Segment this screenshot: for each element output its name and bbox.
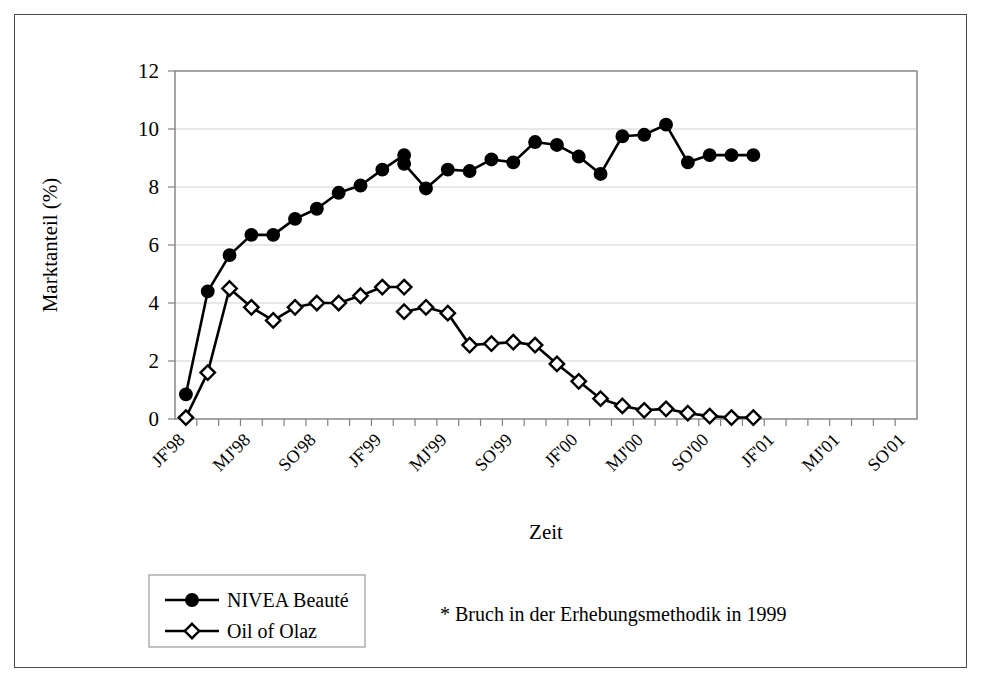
y-tick-label: 4 [149, 291, 160, 315]
y-tick-label: 0 [149, 407, 160, 431]
data-point-marker-circle [551, 139, 563, 151]
data-point-marker-diamond [659, 402, 673, 416]
data-point-marker-circle [747, 149, 759, 161]
data-point-marker-circle [660, 118, 672, 130]
data-point-marker-circle [332, 187, 344, 199]
series-line-segment [186, 155, 404, 394]
data-point-marker-diamond [266, 313, 280, 327]
data-point-marker-diamond [288, 300, 302, 314]
y-axis-tick-labels: 024681012 [138, 59, 160, 431]
data-point-marker-diamond [702, 409, 716, 423]
data-point-marker-diamond [637, 403, 651, 417]
x-tick-label: SO'99 [471, 430, 516, 475]
data-point-marker-diamond [179, 410, 193, 424]
data-point-marker-circle [616, 130, 628, 142]
data-point-marker-circle [267, 229, 279, 241]
x-axis-title: Zeit [529, 520, 563, 544]
data-point-marker-diamond [441, 306, 455, 320]
data-point-marker-circle [245, 229, 257, 241]
data-point-marker-diamond [484, 336, 498, 350]
data-point-marker-circle [573, 150, 585, 162]
x-tick-label: JF'99 [344, 430, 385, 471]
data-point-marker-diamond [397, 305, 411, 319]
data-point-marker-diamond [681, 406, 695, 420]
data-point-marker-circle [594, 168, 606, 180]
data-point-marker-diamond [615, 399, 629, 413]
legend-entry: Oil of Olaz [165, 620, 317, 642]
data-point-marker-circle [420, 182, 432, 194]
x-tick-label: MJ'98 [209, 430, 254, 475]
data-point-marker-diamond [353, 289, 367, 303]
y-tick-label: 10 [138, 117, 159, 141]
data-point-marker-circle [507, 156, 519, 168]
data-point-marker-diamond [462, 338, 476, 352]
data-point-marker-diamond [724, 410, 738, 424]
x-tick-label: MJ'01 [798, 430, 843, 475]
data-point-marker-circle [682, 156, 694, 168]
series-oil-of-olaz [179, 280, 761, 425]
data-point-marker-circle [725, 149, 737, 161]
data-point-marker-circle [180, 388, 192, 400]
data-point-marker-circle [311, 203, 323, 215]
data-point-marker-circle [703, 149, 715, 161]
data-point-marker-diamond [375, 280, 389, 294]
x-axis-tick-labels: JF'98MJ'98SO'98JF'99MJ'99SO'99JF'00MJ'00… [148, 430, 909, 475]
x-tick-label: SO'01 [863, 430, 908, 475]
data-point-marker-circle [638, 129, 650, 141]
y-tick-label: 6 [149, 233, 160, 257]
data-point-marker-circle [289, 213, 301, 225]
data-point-marker-circle [398, 158, 410, 170]
data-point-marker-circle [202, 285, 214, 297]
legend-label: Oil of Olaz [227, 620, 317, 642]
y-axis-ticks [168, 71, 175, 419]
data-point-marker-circle [354, 179, 366, 191]
series-line-segment [404, 307, 753, 417]
x-axis-ticks [197, 419, 895, 426]
data-point-marker-circle [442, 163, 454, 175]
series-nivea-beaut [180, 118, 760, 400]
data-point-marker-diamond [185, 624, 199, 638]
x-tick-label: JF'00 [540, 430, 581, 471]
legend-entries: NIVEA BeautéOil of Olaz [165, 589, 349, 642]
x-tick-label: SO'98 [274, 430, 319, 475]
y-axis-title: Marktanteil (%) [38, 178, 62, 313]
x-tick-label: JF'01 [737, 430, 778, 471]
data-point-marker-diamond [419, 300, 433, 314]
legend-entry: NIVEA Beauté [165, 589, 349, 611]
data-point-marker-circle [376, 163, 388, 175]
chart-legend: NIVEA BeautéOil of Olaz [149, 575, 365, 647]
data-point-marker-circle [186, 594, 198, 606]
methodology-break-footnote: * Bruch in der Erhebungsmethodik in 1999 [440, 603, 787, 626]
y-tick-label: 12 [138, 59, 159, 83]
data-point-marker-diamond [746, 410, 760, 424]
x-tick-label: JF'98 [148, 430, 189, 471]
x-tick-label: MJ'99 [405, 430, 450, 475]
data-point-marker-diamond [310, 296, 324, 310]
x-tick-label: SO'00 [667, 430, 712, 475]
data-point-marker-diamond [397, 280, 411, 294]
data-point-marker-circle [529, 136, 541, 148]
data-point-marker-circle [485, 153, 497, 165]
y-tick-label: 2 [149, 349, 160, 373]
y-tick-label: 8 [149, 175, 160, 199]
data-point-marker-circle [463, 165, 475, 177]
data-point-marker-diamond [331, 296, 345, 310]
legend-label: NIVEA Beauté [227, 589, 349, 611]
data-point-marker-diamond [201, 365, 215, 379]
data-point-marker-circle [223, 249, 235, 261]
gridlines [175, 129, 917, 361]
data-series-layer [179, 118, 761, 424]
market-share-line-chart: 024681012 JF'98MJ'98SO'98JF'99MJ'99SO'99… [15, 15, 966, 667]
data-point-marker-diamond [506, 335, 520, 349]
x-tick-label: MJ'00 [602, 430, 647, 475]
figure-frame: 024681012 JF'98MJ'98SO'98JF'99MJ'99SO'99… [14, 14, 967, 668]
